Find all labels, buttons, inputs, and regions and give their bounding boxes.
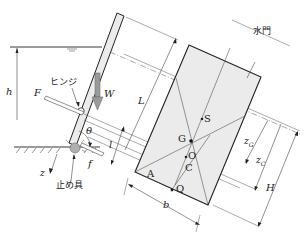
zG-arrow-icon xyxy=(246,159,250,164)
f-label: f xyxy=(88,159,92,169)
zG-sub: G xyxy=(249,141,254,148)
b-arrow-left-icon xyxy=(128,184,133,188)
zC-label: zC xyxy=(256,156,265,167)
hinge-leader-arrow-icon xyxy=(76,102,80,107)
G-label: G xyxy=(178,134,186,144)
l-label: l xyxy=(109,140,112,150)
zC-sub: C xyxy=(261,160,266,167)
b-label: b xyxy=(163,200,169,210)
S-label: S xyxy=(204,114,211,124)
b-arrow-right-icon xyxy=(195,222,200,226)
H-dimension-line xyxy=(259,132,297,226)
point-G xyxy=(189,139,193,143)
l-arrow-top-icon xyxy=(121,126,125,132)
h-label: h xyxy=(6,87,12,97)
O-label: O xyxy=(188,151,196,161)
C-label: C xyxy=(185,163,193,173)
A-label: A xyxy=(147,169,154,179)
theta-label: θ xyxy=(86,126,92,136)
zC-arrow-icon xyxy=(255,186,259,191)
zG-label: zG xyxy=(244,137,254,148)
point-S xyxy=(201,118,204,121)
ground-hatch xyxy=(16,148,96,153)
z-label: z xyxy=(40,169,45,178)
weight-W-arrow-shaft xyxy=(95,73,100,97)
l-arrow-bottom-icon xyxy=(111,160,114,165)
W-label: W xyxy=(104,89,114,99)
gate-label: 水門 xyxy=(253,27,271,36)
F-label: F xyxy=(34,88,41,98)
point-Q xyxy=(171,189,174,192)
Q-label: Q xyxy=(176,184,184,194)
weight-W-arrow-head-icon xyxy=(92,97,103,110)
force-f-rod xyxy=(80,143,104,156)
H-arrow-bottom-icon xyxy=(258,222,262,227)
hinge-label: ヒンジ xyxy=(50,78,77,87)
l-dimension-line xyxy=(112,128,123,163)
water-gate-diagram xyxy=(0,0,308,241)
stopper-leader-arrow-icon xyxy=(73,154,76,159)
point-O xyxy=(185,156,188,159)
stopper-label: 止め具 xyxy=(56,181,83,190)
L-label: L xyxy=(138,96,145,106)
stopper-icon xyxy=(70,143,80,153)
H-label: H xyxy=(266,183,275,193)
h-arrow-head-icon xyxy=(16,48,19,53)
water-level-marker-icon xyxy=(67,49,77,51)
gate-body xyxy=(135,45,261,205)
z-axis-arrow-icon xyxy=(49,168,53,174)
